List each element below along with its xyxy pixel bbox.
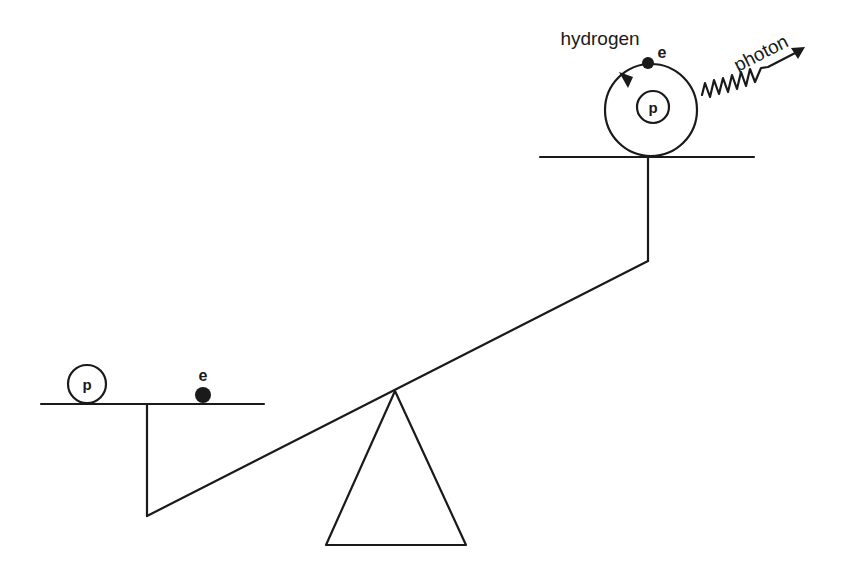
- proton-label: p: [648, 99, 657, 116]
- free-proton: p: [68, 365, 106, 403]
- electron-label: e: [658, 44, 667, 61]
- seesaw-beam: [147, 261, 648, 516]
- photon: photon: [702, 30, 805, 97]
- orbit-direction-arrow-icon: [619, 72, 633, 88]
- seesaw-diagram: p e p e hydrogen photon: [0, 0, 847, 581]
- electron-label: e: [199, 367, 208, 384]
- hydrogen-atom: p e hydrogen: [560, 28, 697, 156]
- hydrogen-label: hydrogen: [560, 28, 639, 49]
- electron-icon: [195, 387, 211, 403]
- orbiting-electron-icon: [642, 57, 654, 69]
- proton-label: p: [82, 376, 91, 393]
- free-electron: e: [195, 367, 211, 403]
